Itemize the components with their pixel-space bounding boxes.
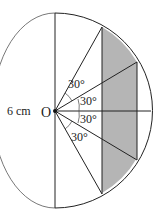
angle-label-3: 30°: [80, 112, 97, 126]
angle-arc-4: [65, 121, 72, 129]
angle-label-2: 30°: [80, 94, 97, 108]
angle-label-1: 30°: [68, 77, 85, 91]
center-point: [53, 109, 57, 113]
angle-arc-1: [65, 93, 72, 101]
shaded-region: [102, 27, 137, 193]
center-label: O: [41, 105, 51, 120]
length-label: 6 cm: [7, 104, 31, 118]
semicircle-diagram: 30° 30° 30° 30° O 6 cm: [0, 0, 157, 218]
angle-label-4: 30°: [71, 130, 88, 144]
